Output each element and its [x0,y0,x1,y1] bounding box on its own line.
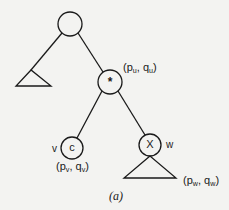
c-coord-label: (pv, qv) [56,161,89,174]
w-coord-label: (pw, qw) [183,175,219,188]
tree-diagram: * (pu, qu) c v (pv, qv) X w (pw, qw) (a) [0,0,229,210]
coord-q-sub: u [149,67,153,75]
left-subtree-triangle [16,70,51,86]
x-node-label: X [144,139,156,150]
w-subtree-triangle [124,156,176,178]
c-node-label: c [66,142,78,153]
w-name-label: w [166,140,173,150]
v-name-label: v [52,144,57,154]
edge-root-star [78,33,103,72]
root-node-circle [58,12,82,36]
coord-q-sub: v [82,166,86,174]
figure-caption: (a) [109,190,123,202]
edge-star-x [118,91,145,135]
edge-star-c [77,91,102,138]
star-coord-label: (pu, qu) [123,62,157,75]
coord-q-sub: w [210,180,215,188]
star-node-label: * [104,76,116,88]
edge-root-left [31,33,62,70]
